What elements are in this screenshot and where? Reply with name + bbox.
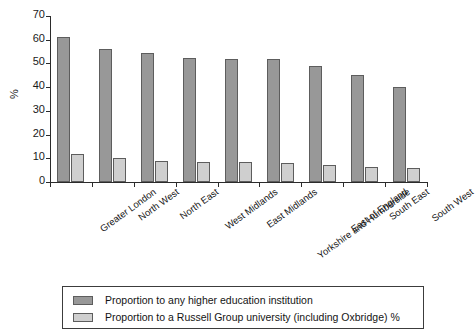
y-tick-label: 30 (23, 103, 45, 115)
bar-group (176, 16, 218, 182)
bar-group (218, 16, 260, 182)
bar (281, 163, 294, 182)
bar-group (385, 16, 427, 182)
legend-item: Proportion to a Russell Group university… (73, 310, 400, 324)
bar (183, 58, 196, 183)
bar-group (50, 16, 92, 182)
legend-swatch-icon (73, 296, 93, 305)
legend-label: Proportion to a Russell Group university… (105, 311, 400, 323)
legend-item: Proportion to any higher education insti… (73, 293, 313, 307)
bar (155, 161, 168, 182)
x-axis-line (50, 182, 428, 183)
bar (351, 75, 364, 182)
legend-label: Proportion to any higher education insti… (105, 294, 313, 306)
y-tick-label: 20 (23, 127, 45, 139)
bar-group (92, 16, 134, 182)
y-tick-label: 0 (23, 174, 45, 186)
y-axis-title: % (8, 82, 20, 106)
bar (407, 168, 420, 182)
bar (323, 165, 336, 182)
y-tick-label: 60 (23, 32, 45, 44)
bar (197, 162, 210, 182)
x-axis-labels: Greater LondonNorth WestNorth EastWest M… (50, 186, 433, 268)
bar-group (134, 16, 176, 182)
x-axis-label: South West (429, 186, 475, 224)
bar (141, 53, 154, 182)
legend-swatch-icon (73, 313, 93, 322)
bar (71, 154, 84, 182)
bar-group (343, 16, 385, 182)
bar (267, 59, 280, 182)
chart-legend: Proportion to any higher education insti… (62, 286, 424, 329)
bar (113, 158, 126, 182)
bar (393, 87, 406, 182)
bar (309, 66, 322, 182)
y-tick-label: 10 (23, 150, 45, 162)
y-tick-label: 70 (23, 8, 45, 20)
plot-area: 010203040506070 (50, 16, 427, 182)
x-axis-label: North East (177, 186, 220, 221)
y-tick-label: 50 (23, 55, 45, 67)
bar (57, 37, 70, 182)
y-tick-label: 40 (23, 79, 45, 91)
bar (365, 167, 378, 182)
bar-group (301, 16, 343, 182)
bar-group (259, 16, 301, 182)
bar (239, 162, 252, 182)
bar (99, 49, 112, 182)
bar (225, 59, 238, 182)
